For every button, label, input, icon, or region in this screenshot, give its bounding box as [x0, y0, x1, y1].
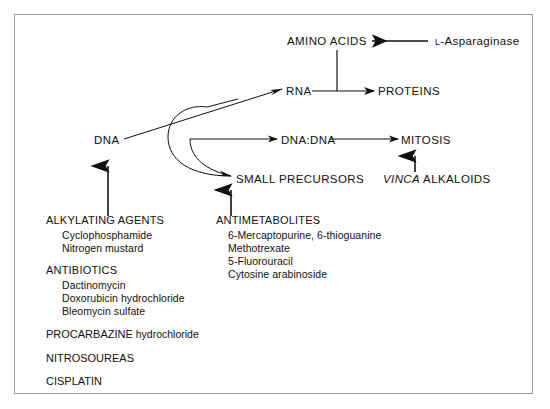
- left-single-2-caps: CISPLATIN: [46, 375, 102, 387]
- left-single-0: PROCARBAZINE hydrochloride: [46, 328, 199, 340]
- left-single-0-caps: PROCARBAZINE: [46, 328, 133, 340]
- left-single-0-rest: hydrochloride: [133, 328, 199, 340]
- flow-diagram: AMINO ACIDS RNA PROTEINS DNA DNA:DNA MIT…: [0, 0, 550, 409]
- right-group1-item-1: Methotrexate: [228, 242, 290, 254]
- left-group1-heading: ALKYLATING AGENTS: [46, 214, 164, 226]
- right-group1-heading: ANTIMETABOLITES: [216, 214, 320, 226]
- left-group2-item-2: Bleomycin sulfate: [62, 305, 145, 317]
- node-rna: RNA: [286, 85, 311, 97]
- node-proteins: PROTEINS: [378, 85, 440, 97]
- right-group1-item-3: Cytosine arabinoside: [228, 268, 327, 280]
- l-asparaginase-rest: -Asparaginase: [440, 35, 519, 47]
- left-group1-item-0: Cyclophosphamide: [62, 229, 152, 241]
- vinca-italic: VINCA: [383, 173, 420, 185]
- vinca-rest: ALKALOIDS: [420, 173, 490, 185]
- left-group1-item-1: Nitrogen mustard: [62, 242, 143, 254]
- left-group2-item-1: Doxorubicin hydrochloride: [62, 292, 185, 304]
- node-dna: DNA: [94, 134, 119, 146]
- label-vinca-alkaloids: VINCA ALKALOIDS: [383, 173, 491, 185]
- label-l-asparaginase: L-Asparaginase: [435, 35, 520, 47]
- left-single-1-caps: NITROSOUREAS: [46, 352, 134, 364]
- right-group1-item-2: 5-Fluorouracil: [228, 255, 293, 267]
- node-dna-dna: DNA:DNA: [281, 134, 336, 146]
- left-single-1: NITROSOUREAS: [46, 352, 134, 364]
- left-group2-heading: ANTIBIOTICS: [46, 264, 117, 276]
- left-group2-item-0: Dactinomycin: [62, 279, 126, 291]
- right-group1-item-0: 6-Mercaptopurine, 6-thioguanine: [228, 229, 381, 241]
- node-small-precursors: SMALL PRECURSORS: [236, 173, 364, 185]
- left-single-2: CISPLATIN: [46, 375, 102, 387]
- node-mitosis: MITOSIS: [401, 134, 451, 146]
- figure-canvas: AMINO ACIDS RNA PROTEINS DNA DNA:DNA MIT…: [0, 0, 550, 409]
- node-amino-acids: AMINO ACIDS: [287, 35, 367, 47]
- edge-dna-to-rna: [124, 89, 282, 139]
